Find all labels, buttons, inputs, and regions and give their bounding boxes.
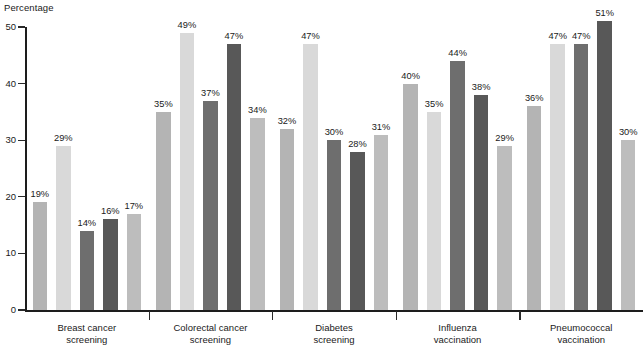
bar	[450, 61, 465, 310]
x-axis-category-label-line: screening	[313, 334, 354, 346]
bottom-bleed-text	[60, 350, 580, 356]
bar	[403, 84, 418, 310]
bar	[156, 112, 171, 310]
bar-value-label: 32%	[278, 116, 297, 126]
bar	[427, 112, 442, 310]
bar-value-label: 44%	[448, 48, 467, 58]
bar-value-label: 17%	[124, 201, 143, 211]
y-axis-line	[25, 27, 27, 311]
y-axis-tick-label: 30	[0, 134, 16, 145]
bar	[574, 44, 589, 310]
y-axis-tick-label: 10	[0, 247, 16, 258]
bar	[227, 44, 242, 310]
x-axis-group-separator	[149, 311, 150, 320]
bar-value-label: 38%	[472, 82, 491, 92]
bar	[350, 152, 365, 310]
bar-value-label: 29%	[54, 133, 73, 143]
bar	[497, 146, 512, 310]
bar-value-label: 40%	[401, 71, 420, 81]
bar	[103, 219, 118, 310]
bar	[180, 33, 195, 310]
x-axis-category-label-line: Colorectal cancer	[173, 322, 247, 334]
bar-value-label: 14%	[77, 218, 96, 228]
bar	[303, 44, 318, 310]
x-axis-category-label: Diabetesscreening	[313, 322, 354, 345]
bar	[597, 21, 612, 310]
bar-value-label: 47%	[548, 31, 567, 41]
y-axis-tick	[18, 140, 25, 141]
y-axis-tick	[18, 26, 25, 27]
grouped-bar-chart: Percentage 0102030405019%29%14%16%17%Bre…	[0, 0, 643, 356]
x-axis-category-label-line: screening	[57, 334, 116, 346]
x-axis-group-separator	[396, 311, 397, 320]
x-axis-group-separator	[272, 311, 273, 320]
bar-value-label: 35%	[425, 99, 444, 109]
bar-value-label: 47%	[572, 31, 591, 41]
bar-value-label: 49%	[178, 20, 197, 30]
x-axis-category-label-line: Breast cancer	[57, 322, 116, 334]
bar-value-label: 29%	[495, 133, 514, 143]
x-axis-category-label-line: Diabetes	[313, 322, 354, 334]
x-axis-category-label: Pneumococcalvaccination	[550, 322, 612, 345]
bar	[80, 231, 95, 310]
bar-value-label: 47%	[301, 31, 320, 41]
y-axis-tick	[18, 253, 25, 254]
bar	[280, 129, 295, 310]
y-axis-tick-label: 20	[0, 190, 16, 201]
bar	[474, 95, 489, 310]
bar-value-label: 16%	[101, 206, 120, 216]
x-axis-category-label-line: screening	[173, 334, 247, 346]
plot-area: 0102030405019%29%14%16%17%Breast cancers…	[0, 0, 643, 356]
bar	[250, 118, 265, 310]
bar-value-label: 30%	[325, 127, 344, 137]
bar	[33, 202, 48, 310]
x-axis-category-label: Colorectal cancerscreening	[173, 322, 247, 345]
x-axis-category-label-line: Influenza	[434, 322, 482, 334]
y-axis-tick-label: 40	[0, 77, 16, 88]
y-axis-tick	[18, 83, 25, 84]
y-axis-tick-label: 0	[0, 304, 16, 315]
bar	[527, 106, 542, 310]
bar	[374, 135, 389, 310]
y-axis-tick	[18, 196, 25, 197]
bar-value-label: 47%	[225, 31, 244, 41]
bar-value-label: 30%	[619, 127, 638, 137]
bar-value-label: 31%	[372, 122, 391, 132]
y-axis-tick-label: 50	[0, 21, 16, 32]
x-axis-category-label: Influenzavaccination	[434, 322, 482, 345]
bar-value-label: 35%	[154, 99, 173, 109]
bar	[56, 146, 71, 310]
bar-value-label: 34%	[248, 105, 267, 115]
x-axis-category-label-line: vaccination	[434, 334, 482, 346]
bar-value-label: 37%	[201, 88, 220, 98]
bar	[550, 44, 565, 310]
bar	[621, 140, 636, 310]
bar-value-label: 28%	[348, 139, 367, 149]
bar	[327, 140, 342, 310]
x-axis-category-label-line: vaccination	[550, 334, 612, 346]
x-axis-category-label-line: Pneumococcal	[550, 322, 612, 334]
bar-value-label: 51%	[595, 8, 614, 18]
x-axis-category-label: Breast cancerscreening	[57, 322, 116, 345]
bar	[203, 101, 218, 310]
y-axis-tick	[18, 309, 25, 310]
bar-value-label: 19%	[30, 189, 49, 199]
bar	[127, 214, 142, 310]
bar-value-label: 36%	[525, 93, 544, 103]
x-axis-line	[25, 310, 643, 312]
x-axis-group-separator	[519, 311, 520, 320]
